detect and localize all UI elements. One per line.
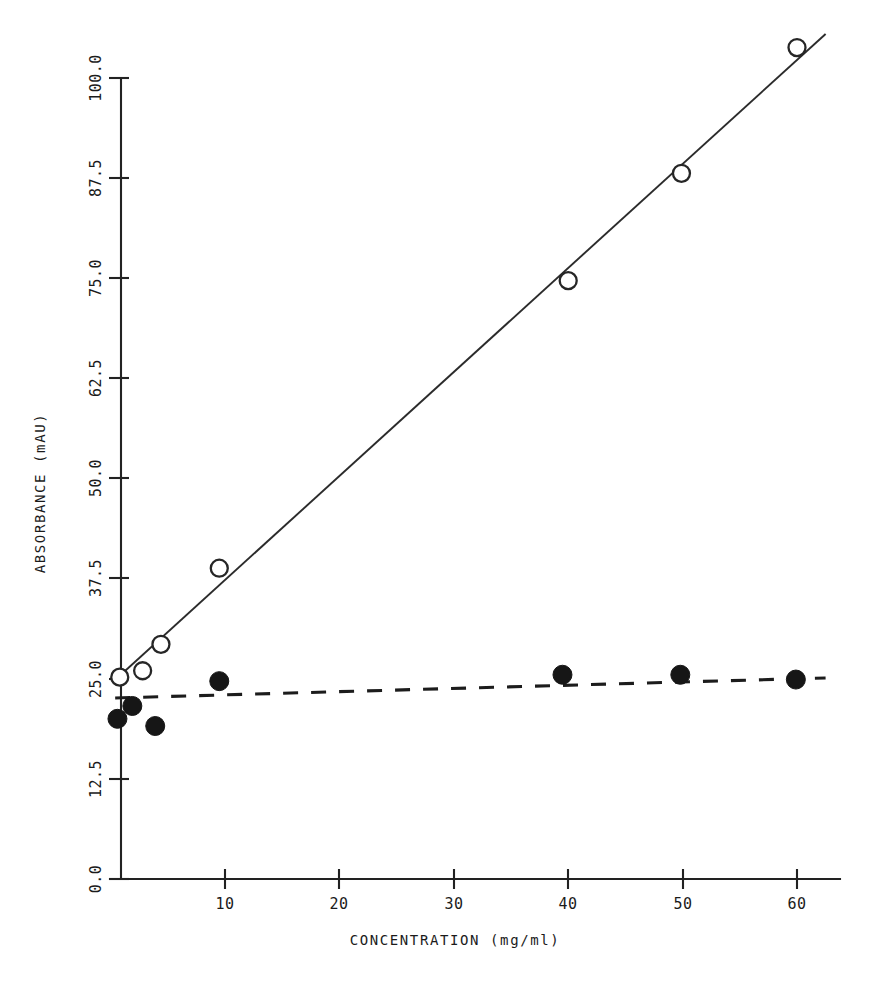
open-circle-marker <box>152 636 169 653</box>
filled-circle-marker <box>108 709 127 728</box>
chart-background <box>0 0 878 991</box>
y-axis-title: ABSORBANCE (mAU) <box>32 413 48 573</box>
x-tick-label: 40 <box>558 895 577 913</box>
y-tick-label: 62.5 <box>87 359 105 397</box>
y-tick-label: 12.5 <box>87 760 105 798</box>
x-tick-label: 60 <box>787 895 806 913</box>
y-tick-label: 37.5 <box>87 559 105 597</box>
open-circle-marker <box>211 560 228 577</box>
y-tick-label: 25.0 <box>87 660 105 698</box>
x-tick-label: 10 <box>215 895 234 913</box>
filled-circle-marker <box>146 717 165 736</box>
filled-circle-marker <box>553 665 572 684</box>
open-circle-marker <box>134 662 151 679</box>
filled-circle-marker <box>210 672 229 691</box>
absorbance-vs-concentration-chart: 100.0 87.5 75.0 62.5 50.0 37.5 25.0 12.5… <box>0 0 878 991</box>
open-circle-marker <box>673 165 690 182</box>
y-tick-label: 87.5 <box>87 159 105 197</box>
x-tick-label: 20 <box>329 895 348 913</box>
open-circle-marker <box>111 669 128 686</box>
open-circle-marker <box>789 39 806 56</box>
x-axis-title: CONCENTRATION (mg/ml) <box>350 932 561 948</box>
filled-circle-marker <box>671 665 690 684</box>
filled-circle-marker <box>786 670 805 689</box>
x-tick-label: 50 <box>673 895 692 913</box>
y-tick-label: 100.0 <box>87 54 105 102</box>
y-tick-label: 75.0 <box>87 259 105 297</box>
y-tick-label: 0.0 <box>87 865 105 894</box>
filled-circle-marker <box>123 696 142 715</box>
x-tick-label: 30 <box>444 895 463 913</box>
y-axis-tick-labels: 100.0 87.5 75.0 62.5 50.0 37.5 25.0 12.5… <box>87 54 105 893</box>
y-tick-label: 50.0 <box>87 459 105 497</box>
open-circle-marker <box>560 272 577 289</box>
